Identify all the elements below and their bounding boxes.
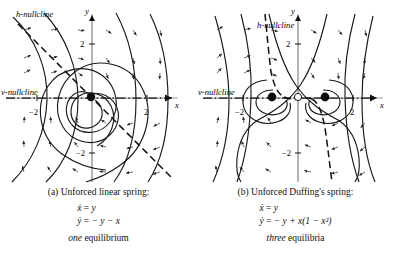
caption-a-title: (a) Unforced linear spring: xyxy=(0,186,197,198)
axes-b xyxy=(203,14,383,182)
figure-phase-portraits: h-nullcline v-nullcline x y −2 2 2 −2 xyxy=(0,0,394,259)
x-axis-label-a: x xyxy=(174,100,179,110)
h-nullcline-label-b: h-nullcline xyxy=(257,20,294,30)
phase-portrait-a: h-nullcline v-nullcline x y −2 2 2 −2 xyxy=(0,0,197,185)
v-nullcline-label-b: v-nullcline xyxy=(198,87,235,97)
caption-b-text: Unforced Duffing's spring: xyxy=(251,187,353,197)
panel-a-linear-spring: h-nullcline v-nullcline x y −2 2 2 −2 xyxy=(0,0,197,185)
x-tick-neg2-a: −2 xyxy=(29,107,38,117)
equilibria-count-b: three equilibria xyxy=(197,232,394,244)
equilibria-text-b: equilibria xyxy=(288,233,324,243)
equilibria-b xyxy=(268,93,330,102)
equilibrium-a xyxy=(87,93,95,101)
phase-portrait-b: h-nullcline v-nullcline x y −2 2 2 −2 xyxy=(197,0,394,185)
caption-a-label: (a) xyxy=(48,187,59,197)
x-axis-label-b: x xyxy=(379,100,384,110)
caption-a-text: Unforced linear spring: xyxy=(61,187,150,197)
h-nullcline-label-a: h-nullcline xyxy=(16,9,53,19)
x-tick-2-a: 2 xyxy=(144,107,148,117)
equilibrium-left-focus xyxy=(268,93,277,102)
equilibria-word-b: three xyxy=(267,233,286,243)
equilibria-text-a: equilibrium xyxy=(84,233,128,243)
y-axis-label-b: y xyxy=(290,6,295,16)
equation-b-1: ẋ = y xyxy=(259,202,331,214)
caption-b-label: (b) xyxy=(238,187,249,197)
equilibria-count-a: one equilibrium xyxy=(0,232,197,244)
y-tick-neg2-a: −2 xyxy=(76,148,85,158)
equations-b: ẋ = y ẏ = − y + x(1 − x²) xyxy=(259,202,331,227)
v-nullcline-label-a: v-nullcline xyxy=(1,87,38,97)
y-tick-2-b: 2 xyxy=(286,39,290,49)
equation-a-2: ẏ = − y − x xyxy=(77,215,120,227)
equation-b-2: ẏ = − y + x(1 − x²) xyxy=(259,215,331,227)
caption-a: (a) Unforced linear spring: ẋ = y ẏ = … xyxy=(0,186,197,244)
equations-a: ẋ = y ẏ = − y − x xyxy=(77,202,120,227)
caption-b-title: (b) Unforced Duffing's spring: xyxy=(197,186,394,198)
caption-b: (b) Unforced Duffing's spring: ẋ = y ẏ… xyxy=(197,186,394,244)
panel-b-duffing-spring: h-nullcline v-nullcline x y −2 2 2 −2 xyxy=(197,0,394,185)
equation-a-1: ẋ = y xyxy=(77,202,120,214)
y-tick-neg2-b: −2 xyxy=(282,148,291,158)
equilibrium-right-focus xyxy=(321,93,330,102)
x-tick-2-b: 2 xyxy=(350,107,354,117)
y-tick-2-a: 2 xyxy=(80,39,84,49)
equilibrium-saddle xyxy=(294,93,301,100)
y-axis-label-a: y xyxy=(84,6,89,16)
equilibria-word-a: one xyxy=(68,233,82,243)
x-tick-neg2-b: −2 xyxy=(235,107,244,117)
